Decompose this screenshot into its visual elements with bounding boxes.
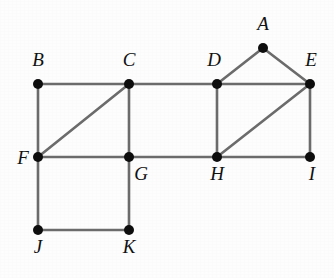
graph-node-a — [258, 43, 268, 53]
graph-edge-f-c — [38, 84, 129, 157]
graph-node-c — [124, 79, 134, 89]
graph-canvas: ABCDEFGHIJK — [0, 0, 334, 278]
graph-node-h — [212, 152, 222, 162]
graph-edge-a-e — [263, 48, 310, 84]
graph-node-g — [124, 152, 134, 162]
graph-node-b — [33, 79, 43, 89]
labels-group: ABCDEFGHIJK — [16, 13, 317, 257]
nodes-group — [33, 43, 315, 235]
graph-node-label-d: D — [206, 49, 221, 70]
graph-node-i — [305, 152, 315, 162]
graph-node-label-h: H — [209, 163, 225, 184]
graph-node-d — [212, 79, 222, 89]
graph-node-label-j: J — [34, 236, 44, 257]
graph-edge-h-e — [217, 84, 310, 157]
graph-node-label-b: B — [32, 49, 44, 70]
edges-group — [38, 48, 310, 230]
graph-node-label-k: K — [122, 236, 137, 257]
graph-node-label-e: E — [304, 49, 317, 70]
graph-node-label-f: F — [16, 147, 29, 168]
graph-node-e — [305, 79, 315, 89]
graph-node-label-i: I — [308, 163, 317, 184]
graph-node-f — [33, 152, 43, 162]
graph-node-label-g: G — [134, 163, 148, 184]
graph-node-k — [124, 225, 134, 235]
graph-node-j — [33, 225, 43, 235]
graph-node-label-c: C — [123, 49, 136, 70]
graph-node-label-a: A — [255, 13, 269, 34]
graph-edge-a-d — [217, 48, 263, 84]
graph-figure: ABCDEFGHIJK — [0, 0, 334, 278]
